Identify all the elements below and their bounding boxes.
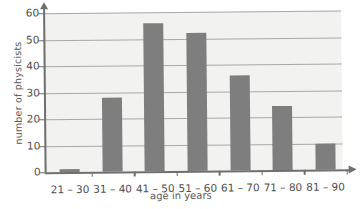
x-axis-tick bbox=[261, 170, 262, 175]
plot-area: 0102030405060 21 – 3031 – 4041 – 5051 – … bbox=[43, 10, 343, 172]
bar bbox=[186, 33, 207, 171]
x-axis-tick bbox=[304, 170, 305, 175]
x-axis-arrow-icon bbox=[349, 165, 357, 173]
y-axis-tick-label: 30 bbox=[0, 86, 40, 98]
y-axis-tick-label: 40 bbox=[0, 59, 40, 71]
y-axis-tick-label: 20 bbox=[0, 112, 40, 124]
y-axis-arrow-icon bbox=[40, 2, 48, 9]
x-axis-tick bbox=[91, 172, 92, 177]
bar bbox=[229, 75, 250, 171]
y-axis-tick-label: 60 bbox=[0, 6, 39, 18]
y-axis-tick-label: 0 bbox=[1, 165, 41, 177]
bar bbox=[315, 143, 335, 170]
bar bbox=[272, 106, 293, 170]
y-axis-tick-label: 50 bbox=[0, 33, 39, 45]
chart-screenshot: number of physicists 0102030405060 21 – … bbox=[0, 0, 360, 209]
x-axis-tick bbox=[134, 171, 135, 176]
x-axis-tick bbox=[176, 171, 177, 176]
bar bbox=[144, 23, 165, 172]
x-axis-title: age in years bbox=[1, 188, 360, 202]
x-axis-tick bbox=[219, 171, 220, 176]
y-axis-tick-label: 10 bbox=[0, 139, 40, 151]
bar bbox=[102, 97, 123, 171]
x-axis-tick bbox=[347, 169, 348, 174]
